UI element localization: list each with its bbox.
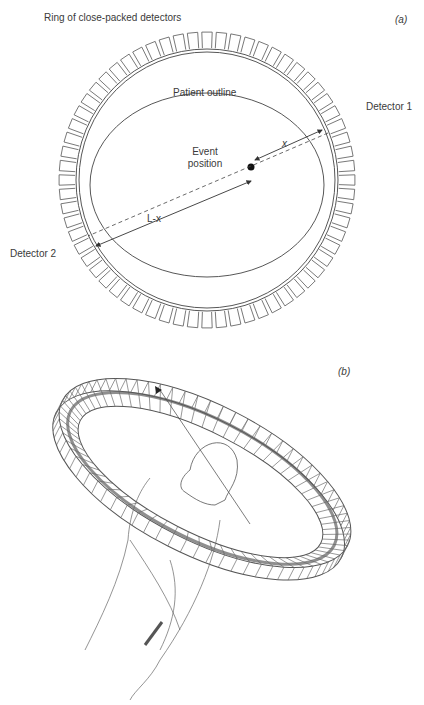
scanner-detector-block [211,406,226,432]
scanner-detector-block [66,440,86,451]
detector-element [327,226,346,241]
scanner-detector-block [272,444,293,472]
detector-element [173,309,186,327]
scanner-detector-edge [109,378,115,390]
scanner-detector-edge [267,566,273,578]
scanner-detector-block [259,555,275,566]
detector-element [228,309,241,327]
scanner-detector-edge [53,419,59,431]
scanner-detector-block [138,506,147,516]
scanner-detector-block [286,558,304,568]
scanner-detector-block [57,419,81,435]
detector-element [336,201,354,214]
scanner-detector-edge [343,540,349,552]
scanner-detector-edge [75,384,81,396]
scanner-detector-block [60,395,87,417]
scanner-ring-outer [32,340,379,606]
scanner-detector-block [234,418,249,444]
scanner-detector-block [81,382,109,408]
scanner-detector-edge [166,387,172,399]
detector-element [336,146,354,159]
detector-element [68,226,87,241]
detector-ring-teeth [59,32,355,328]
scanner-detector-block [316,496,344,523]
detector-element [146,300,161,319]
panel-a-diagram [0,0,424,350]
detector-element [159,37,173,55]
scanner-detector-block [186,396,204,423]
scanner-detector-block [69,387,97,411]
scanner-detector-block [318,539,344,558]
scanner-detector-block [238,551,252,562]
detector-element [332,214,350,228]
scanner-detector-edge [242,419,248,431]
scanner-detector-edge [143,520,149,532]
scanner-detector-block [249,554,264,565]
scanner-detector-edge [243,562,249,574]
scanner-detector-edge [100,379,106,391]
scanner-detector-block [295,466,320,494]
scanner-detector-block [302,473,328,501]
detector-element [61,201,79,214]
scanner-detector-edge [91,380,97,392]
detected-photon-marker [155,386,162,394]
detector-2-label: Detector 2 [10,248,56,259]
scanner-detector-block [126,380,151,408]
scanner-detector-edge [344,527,350,539]
detector-element [202,312,212,328]
syringe [145,622,162,645]
scanner-detector-block [64,391,92,414]
scanner-detector-edge [64,391,70,403]
scanner-detector-edge [154,384,160,396]
scanner-detector-edge [142,382,148,394]
event-label-line2: position [175,158,235,169]
scanner-detector-edge [276,441,282,453]
event-label-line1: Event [175,146,235,157]
lx-distance-label: L-x [147,213,161,224]
detector-element [64,214,82,228]
scanner-detector-block [127,499,138,509]
scanner-detector-block [321,534,348,554]
scanner-detector-edge [180,540,186,552]
detector-element [173,34,186,52]
patient-outline-label: Patient outline [173,87,236,98]
scanner-detector-block [315,544,340,561]
scanner-detector-edge [344,534,350,546]
x-distance-label: x [282,138,287,149]
scanner-detector-block [312,488,339,515]
scanner-detector-block [74,384,102,409]
detector-element [215,32,226,49]
scanner-detector-block [323,523,351,546]
detector-element [159,305,173,323]
scanner-detector-edge [322,562,328,574]
scanner-detector-edge [314,473,320,485]
detector-element [339,175,355,185]
scanner-detector-block [280,451,303,479]
detector-element [327,119,346,134]
scanner-detector-block [150,513,157,522]
scanner-detector-edge [307,566,313,578]
scanner-detector-block [116,379,142,407]
scanner-detector-block [263,437,283,465]
scanner-detector-block [97,379,124,406]
scanner-detector-edge [297,457,303,469]
scanner-detector-block [195,536,202,545]
scanner-detector-block [137,382,161,411]
scanner-detector-edge [306,465,312,477]
detector-element [241,37,255,55]
scanner-detector-block [76,455,94,465]
scanner-detector-edge [60,440,66,452]
lx-distance-arrow [96,181,251,246]
scanner-detector-edge [231,559,237,571]
detector-element [332,132,350,146]
patient-body [85,478,220,700]
scanner-detector-edge [218,555,224,567]
detector-element [187,311,198,328]
detector-element [59,175,75,185]
scanner-detector-block [268,557,285,567]
scanner-detector-block [70,448,88,458]
scanner-detector-edge [179,391,185,403]
scanner-detector-edge [70,456,76,468]
scanner-detector-edge [204,401,210,413]
scanner-detector-edge [121,505,127,517]
